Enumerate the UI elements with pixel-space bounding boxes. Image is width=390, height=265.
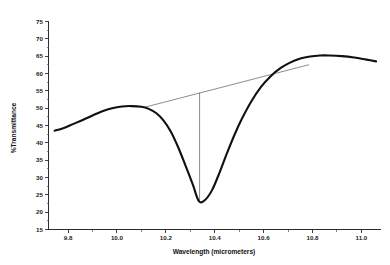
y-tick-label: 45	[36, 122, 43, 129]
y-tick-label: 60	[36, 70, 43, 77]
y-tick-label: 25	[36, 191, 43, 198]
y-tick-label: 70	[36, 35, 43, 42]
x-tick-label: 10.6	[258, 234, 271, 241]
baseline-tangent-line	[146, 65, 309, 107]
x-tick-label: 11.0	[356, 234, 368, 241]
y-tick-label: 65	[36, 52, 43, 59]
y-tick-label: 20	[36, 208, 43, 215]
y-tick-label: 75	[36, 18, 43, 25]
y-tick-label: 15	[36, 226, 43, 233]
y-tick-label: 35	[36, 156, 43, 163]
spectrum-curve	[55, 55, 377, 202]
y-tick-label: 30	[36, 174, 43, 181]
axis-lines	[49, 22, 382, 230]
x-tick-label: 10.8	[307, 234, 320, 241]
x-tick-label: 10.4	[209, 234, 222, 241]
x-tick-label: 10.0	[111, 234, 124, 241]
chart-figure: 15202530354045505560657075 9.810.010.210…	[0, 0, 390, 265]
x-tick-label: 10.2	[160, 234, 173, 241]
x-axis-tick-labels: 9.810.010.210.410.610.811.0	[64, 234, 368, 241]
x-tick-label: 9.8	[64, 234, 73, 241]
transmittance-chart: 15202530354045505560657075 9.810.010.210…	[0, 0, 390, 265]
y-tick-label: 55	[36, 87, 43, 94]
y-axis-tick-labels: 15202530354045505560657075	[36, 18, 43, 233]
y-tick-label: 40	[36, 139, 43, 146]
x-axis-title: Wavelength (micrometers)	[173, 248, 256, 256]
y-tick-label: 50	[36, 104, 43, 111]
y-axis-title: %Transmittance	[10, 102, 17, 153]
